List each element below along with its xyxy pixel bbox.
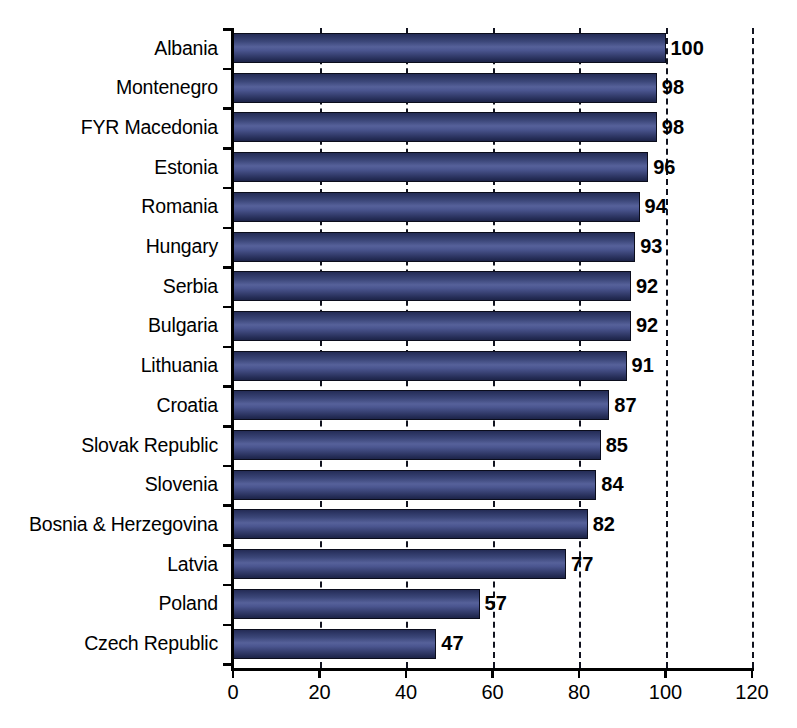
y-axis-tick [223, 385, 233, 388]
category-label: Slovenia [0, 470, 226, 500]
x-axis-tick-label: 60 [481, 681, 503, 704]
bar-value-label: 91 [627, 351, 654, 381]
category-label-text: Slovak Republic [81, 434, 218, 457]
bar [233, 430, 601, 460]
bar [233, 73, 657, 103]
bar-value-label: 94 [640, 192, 667, 222]
x-axis-tick-label: 120 [735, 681, 768, 704]
bar [233, 112, 657, 142]
x-axis-tick [318, 668, 321, 678]
bar [233, 390, 609, 420]
y-axis-tick [223, 187, 233, 190]
bar-value-label: 98 [657, 73, 684, 103]
bar-value-label: 92 [631, 311, 658, 341]
y-axis-tick [223, 346, 233, 349]
x-axis-tick [751, 668, 754, 678]
y-axis-tick [223, 465, 233, 468]
y-axis-tick [223, 306, 233, 309]
category-label-text: Slovenia [145, 473, 218, 496]
y-axis-tick [223, 663, 233, 666]
bar [233, 470, 596, 500]
bar-row: Slovak Republic85 [0, 430, 797, 460]
bar-value-label: 92 [631, 271, 658, 301]
category-label: Romania [0, 192, 226, 222]
bar-row: Poland57 [0, 589, 797, 619]
bar-value-label: 77 [566, 549, 593, 579]
bar-row: Estonia96 [0, 152, 797, 182]
bar-row: Bosnia & Herzegovina82 [0, 509, 797, 539]
bar [233, 271, 631, 301]
category-label-text: Croatia [157, 394, 218, 417]
bar-row: Bulgaria92 [0, 311, 797, 341]
bar-row: Latvia77 [0, 549, 797, 579]
bar-row: Slovenia84 [0, 470, 797, 500]
bar [233, 629, 436, 659]
bar-row: Romania94 [0, 192, 797, 222]
bar-value-label: 82 [588, 509, 615, 539]
category-label: Poland [0, 589, 226, 619]
category-label-text: Serbia [163, 275, 218, 298]
category-label-text: Estonia [154, 156, 218, 179]
x-axis-tick-label: 80 [568, 681, 590, 704]
category-label-text: Albania [154, 37, 218, 60]
bar-value-label: 85 [601, 430, 628, 460]
category-label: Bosnia & Herzegovina [0, 509, 226, 539]
y-axis-tick [223, 266, 233, 269]
category-label-text: Lithuania [141, 354, 218, 377]
category-label-text: Latvia [167, 553, 218, 576]
y-axis-tick [223, 28, 233, 31]
x-axis-tick-label: 20 [308, 681, 330, 704]
bar-row: Lithuania91 [0, 351, 797, 381]
bar-chart: Albania100Montenegro98FYR Macedonia98Est… [0, 0, 797, 728]
category-label: FYR Macedonia [0, 112, 226, 142]
bar [233, 509, 588, 539]
category-label-text: Romania [141, 195, 218, 218]
bar [233, 232, 635, 262]
category-label-text: FYR Macedonia [81, 116, 218, 139]
bar-value-label: 57 [480, 589, 507, 619]
bar [233, 351, 627, 381]
bar-value-label: 93 [635, 232, 662, 262]
y-axis-tick [223, 544, 233, 547]
y-axis-tick [223, 504, 233, 507]
bar [233, 311, 631, 341]
category-label-text: Poland [158, 592, 218, 615]
x-axis-tick-label: 100 [649, 681, 682, 704]
category-label-text: Bulgaria [148, 314, 218, 337]
y-axis-tick [223, 425, 233, 428]
y-axis-tick [223, 584, 233, 587]
y-axis-tick [223, 227, 233, 230]
bar [233, 33, 666, 63]
category-label: Hungary [0, 232, 226, 262]
category-label-text: Czech Republic [84, 632, 218, 655]
x-axis-tick [405, 668, 408, 678]
x-axis-tick-label: 0 [227, 681, 238, 704]
bar-value-label: 98 [657, 112, 684, 142]
bar [233, 549, 566, 579]
category-label: Croatia [0, 390, 226, 420]
bar-row: FYR Macedonia98 [0, 112, 797, 142]
bar-value-label: 84 [596, 470, 623, 500]
category-label: Latvia [0, 549, 226, 579]
x-axis-tick-label: 40 [395, 681, 417, 704]
chart-page: Albania100Montenegro98FYR Macedonia98Est… [0, 0, 797, 728]
category-label: Estonia [0, 152, 226, 182]
bar-row: Czech Republic47 [0, 629, 797, 659]
bar [233, 192, 640, 222]
bar [233, 152, 648, 182]
bar-row: Albania100 [0, 33, 797, 63]
category-label: Slovak Republic [0, 430, 226, 460]
category-label: Lithuania [0, 351, 226, 381]
y-axis-tick [223, 624, 233, 627]
category-label: Czech Republic [0, 629, 226, 659]
bar-value-label: 47 [436, 629, 463, 659]
category-label: Montenegro [0, 73, 226, 103]
bar-value-label: 87 [609, 390, 636, 420]
y-axis-tick [223, 107, 233, 110]
x-axis-tick [578, 668, 581, 678]
x-axis-tick [232, 668, 235, 678]
y-axis-tick [223, 147, 233, 150]
x-axis-tick [664, 668, 667, 678]
bar-row: Croatia87 [0, 390, 797, 420]
category-label: Serbia [0, 271, 226, 301]
